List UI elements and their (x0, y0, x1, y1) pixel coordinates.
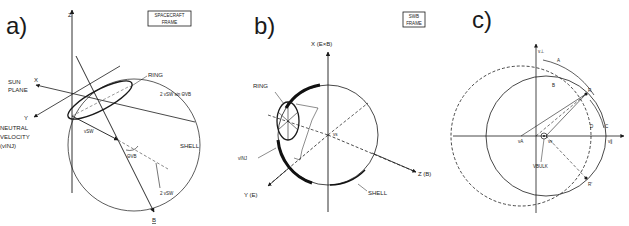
theta-label: ΘVB (127, 154, 137, 159)
panel-a: a) SPACECRAFT FRAME Z X Y B SUN PLANE RI… (0, 10, 200, 223)
shell-shading-left (278, 140, 312, 183)
x-axis-label: X (34, 77, 38, 83)
ring-radius-label: 2 vSW sin ΘVB (160, 92, 191, 97)
label-vA: vA (518, 139, 523, 144)
vbulk-leader (541, 139, 544, 162)
line-vs-R (546, 94, 586, 136)
label-vs: vs (548, 139, 553, 144)
label-R: R (588, 88, 592, 93)
panel-b: b) SWB FRAME X (E×B) Z (B) Y (E) RING vI… (238, 12, 431, 212)
x-axis-label: X (E×B) (311, 41, 332, 47)
label-C: C (605, 124, 609, 129)
shell-leader (358, 184, 367, 191)
vinj-leader (258, 148, 276, 158)
label-vbulk: VBULK (533, 164, 548, 169)
panel-a-label: a) (6, 12, 27, 39)
panel-c-label: c) (472, 6, 492, 33)
ring-leader (275, 92, 284, 104)
y-axis-label: Y (E) (244, 192, 258, 198)
label-A: A (557, 58, 560, 63)
arc-A (543, 60, 594, 95)
line-origin-R (536, 94, 586, 136)
y-axis (268, 167, 290, 186)
figure-canvas: a) SPACECRAFT FRAME Z X Y B SUN PLANE RI… (0, 0, 629, 226)
vpar-label: v∥ (608, 139, 613, 145)
frame-label-line2: FRAME (406, 21, 422, 26)
y-axis (34, 66, 120, 117)
two-vsw-label: 2 vSW (160, 191, 174, 196)
ring-leader (130, 76, 147, 87)
label-D: D (590, 124, 594, 129)
label-B: B (552, 83, 555, 88)
diagonal-dashed (328, 103, 368, 135)
vperp-label: v⊥ (538, 49, 544, 54)
label-Rprime: R' (588, 182, 592, 187)
vs-label: vs (333, 132, 338, 137)
b-axis-label: B (152, 217, 156, 223)
neutral-label-1: NEUTRAL (0, 125, 29, 131)
neutral-label-3: (vINJ) (0, 143, 16, 149)
ring-label: RING (148, 72, 163, 78)
y-axis-label: Y (24, 115, 28, 121)
frame-label-line1: SPACECRAFT (155, 13, 185, 18)
frame-label-line1: SWB (409, 14, 419, 19)
two-vsw-leader (156, 163, 160, 188)
point-Rprime (584, 176, 587, 179)
frame-label-line2: FRAME (162, 20, 178, 25)
bulk-marker-dot (543, 135, 545, 137)
z-axis-label: Z (68, 12, 72, 18)
panel-b-label: b) (254, 12, 275, 39)
z-axis (372, 153, 416, 172)
sun-plane-label-1: SUN (8, 79, 21, 85)
shell-label: SHELL (368, 190, 388, 196)
vinj-label: vINJ (238, 156, 247, 161)
sun-plane-label-2: PLANE (8, 87, 28, 93)
shell-shading-top (286, 85, 320, 108)
panel-c: c) v⊥ v∥ A B C D R R' vA vs VBULK (451, 6, 624, 213)
z-axis-label: Z (B) (418, 171, 431, 177)
vsw-label: vSW (84, 129, 94, 134)
neutral-label-2: VELOCITY (0, 134, 30, 140)
ring-label: RING (253, 83, 268, 89)
vsw-vector (72, 116, 118, 140)
line-vA-R (521, 94, 586, 136)
shell-label: SHELL (180, 143, 200, 149)
shell-shading-bottom (330, 170, 365, 185)
